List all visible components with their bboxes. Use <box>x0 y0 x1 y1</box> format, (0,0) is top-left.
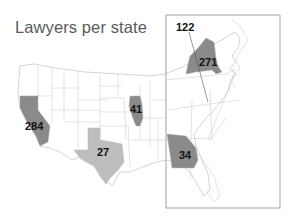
us-map: 284 27 41 271 34 122 <box>0 0 293 220</box>
label-illinois: 41 <box>130 103 142 115</box>
label-california: 284 <box>25 120 44 132</box>
label-dc-callout: 122 <box>176 21 194 33</box>
label-new-york: 271 <box>199 56 217 68</box>
label-georgia: 34 <box>179 149 192 161</box>
label-texas: 27 <box>97 146 109 158</box>
